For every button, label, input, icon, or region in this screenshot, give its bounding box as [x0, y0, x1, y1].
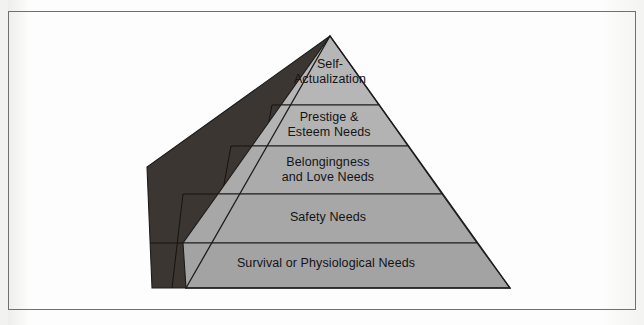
pyramid-tier-safety[interactable]	[183, 194, 477, 243]
pyramid-tier-survival[interactable]	[183, 243, 510, 288]
scanned-page: Self- Actualization Prestige & Esteem Ne…	[0, 0, 644, 325]
pyramid-figure: Self- Actualization Prestige & Esteem Ne…	[0, 0, 644, 325]
pyramid-svg	[0, 0, 644, 325]
pyramid-tier-belongingness[interactable]	[218, 146, 442, 194]
